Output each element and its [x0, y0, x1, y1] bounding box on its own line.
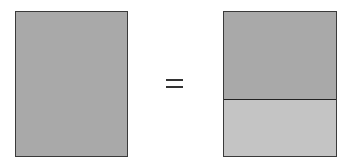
- split-rectangle-top-part: [224, 12, 336, 100]
- equals-bar-bottom: [166, 86, 183, 88]
- whole-rectangle: [15, 11, 128, 157]
- split-rectangle: [223, 11, 337, 157]
- equals-sign: [166, 79, 183, 89]
- equals-bar-top: [166, 79, 183, 81]
